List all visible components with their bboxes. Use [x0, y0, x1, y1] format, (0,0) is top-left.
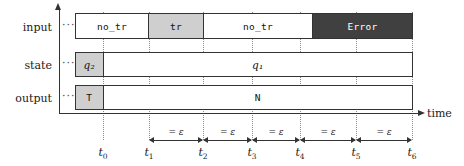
interval-arrow-right-1 — [198, 137, 203, 143]
interval-arrow-right-5 — [407, 137, 412, 143]
interval-arrow-right-4 — [351, 137, 356, 143]
state-segment-q1: q₁ — [103, 52, 413, 77]
tick-label-t6: t6 — [407, 146, 416, 161]
time-axis-arrow-icon — [418, 110, 425, 116]
interval-line-2 — [204, 140, 251, 141]
interval-line-1 — [150, 140, 202, 141]
input-segment-no-tr-1: no_tr — [75, 13, 149, 39]
output-segment-t: T — [75, 85, 104, 110]
interval-label-1: = ε — [167, 127, 184, 137]
tick-label-t1: t1 — [144, 146, 153, 161]
interval-label-4: = ε — [319, 127, 336, 137]
row-leader-output: ··· — [62, 90, 76, 103]
tick-label-t4: t4 — [295, 146, 304, 161]
state-segment-q2: q₂ — [75, 52, 104, 77]
interval-line-4 — [301, 140, 355, 141]
vertical-axis — [59, 9, 60, 114]
row-leader-state: ··· — [62, 57, 76, 70]
row-label-output: output — [0, 92, 52, 105]
output-segment-n: N — [103, 85, 413, 110]
interval-arrow-right-3 — [295, 137, 300, 143]
time-axis — [59, 113, 419, 114]
input-segment-error: Error — [312, 13, 413, 39]
timing-diagram: time input ··· no_tr tr no_tr Error stat… — [0, 0, 464, 166]
interval-label-5: = ε — [375, 127, 392, 137]
row-label-input: input — [0, 21, 52, 34]
interval-label-3: = ε — [267, 127, 284, 137]
input-segment-no-tr-2: no_tr — [203, 13, 313, 39]
time-axis-label: time — [427, 107, 452, 120]
tick-label-t2: t2 — [198, 146, 207, 161]
interval-arrow-right-2 — [247, 137, 252, 143]
row-leader-input: ··· — [62, 19, 76, 32]
interval-label-2: = ε — [219, 127, 236, 137]
row-label-state: state — [0, 59, 52, 72]
interval-line-3 — [253, 140, 299, 141]
input-segment-tr: tr — [148, 13, 204, 39]
tick-label-t0: t0 — [98, 146, 107, 161]
interval-line-5 — [357, 140, 411, 141]
tick-label-t3: t3 — [247, 146, 256, 161]
tick-label-t5: t5 — [351, 146, 360, 161]
